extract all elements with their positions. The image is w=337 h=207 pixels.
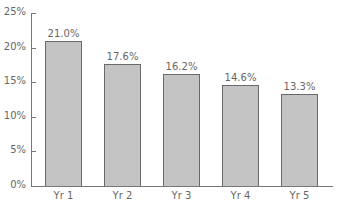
bar: [163, 74, 200, 186]
x-category-label: Yr 2: [98, 190, 148, 201]
y-tick-label: 15%: [0, 75, 26, 86]
y-tick-label: 5%: [0, 144, 26, 155]
bar-value-label: 13.3%: [275, 81, 325, 92]
y-tick-mark: [31, 117, 36, 118]
y-tick-label: 0%: [0, 179, 26, 190]
y-tick-mark: [31, 48, 36, 49]
x-category-label: Yr 5: [275, 190, 325, 201]
y-tick-mark: [31, 13, 36, 14]
y-tick-mark: [31, 151, 36, 152]
bar-value-label: 14.6%: [216, 72, 266, 83]
y-tick-mark: [31, 82, 36, 83]
y-tick-label: 20%: [0, 41, 26, 52]
y-axis: [31, 13, 32, 186]
bar: [222, 85, 259, 186]
bar-value-label: 16.2%: [157, 61, 207, 72]
bar-chart: 0%5%10%15%20%25% 21.0%Yr 117.6%Yr 216.2%…: [0, 0, 337, 207]
x-category-label: Yr 1: [39, 190, 89, 201]
x-axis: [31, 186, 333, 187]
bar: [104, 64, 141, 186]
y-tick-label: 25%: [0, 6, 26, 17]
bar-value-label: 17.6%: [98, 51, 148, 62]
x-category-label: Yr 4: [216, 190, 266, 201]
y-tick-label: 10%: [0, 110, 26, 121]
x-category-label: Yr 3: [157, 190, 207, 201]
bar-value-label: 21.0%: [39, 28, 89, 39]
bar: [45, 41, 82, 186]
bar: [281, 94, 318, 186]
